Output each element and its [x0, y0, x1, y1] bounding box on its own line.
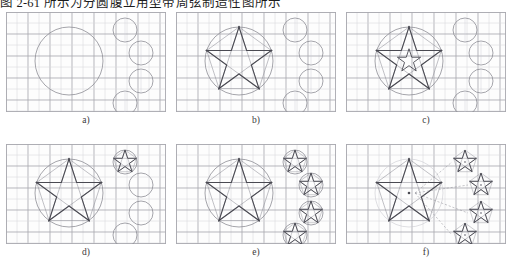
big-guide-circle — [205, 159, 273, 227]
figure-top-caption: 图 2-61 所示为分圆腹立用型带周弦制造性图所示 — [0, 0, 509, 10]
star-construction-lines — [376, 158, 442, 221]
big-guide-circle — [205, 27, 273, 95]
small-star-unit-4 — [454, 223, 477, 244]
big-guide-circle — [35, 159, 103, 227]
small-guide-circle-1 — [283, 150, 307, 174]
small-star-unit-3 — [129, 201, 153, 225]
small-star-unit-2 — [129, 173, 153, 197]
figure-panel-d — [6, 144, 166, 244]
small-star-unit-1 — [113, 150, 137, 174]
small-star-unit-2 — [129, 41, 153, 65]
big-five-pointed-star — [37, 159, 102, 221]
small-star-unit-3 — [299, 201, 323, 225]
big-five-pointed-star — [207, 27, 272, 89]
small-guide-circle-4 — [113, 223, 137, 244]
big-five-pointed-star — [207, 159, 272, 221]
small-star-unit-2 — [299, 41, 323, 65]
small-guide-circle-2 — [129, 173, 153, 197]
panel-caption-e: e) — [176, 247, 336, 258]
small-star-unit-2 — [299, 173, 323, 197]
small-guide-circle-3 — [299, 201, 323, 225]
star-construction-lines — [206, 26, 272, 89]
small-star-unit-1 — [454, 150, 477, 172]
figure-panel-f — [346, 144, 506, 244]
small-star-unit-2 — [469, 41, 493, 65]
big-guide-circle — [375, 27, 443, 95]
small-star-unit-3 — [469, 69, 493, 93]
panel-caption-f: f) — [346, 247, 506, 258]
small-guide-circle-3 — [129, 201, 153, 225]
big-guide-circle — [35, 27, 103, 95]
small-star-unit-1 — [283, 18, 307, 42]
star-construction-lines — [206, 158, 272, 221]
small-star-unit-4 — [113, 223, 137, 244]
graph-paper-grid — [6, 12, 166, 112]
small-star-unit-3 — [129, 69, 153, 93]
small-five-pointed-star-4 — [454, 223, 477, 244]
star-construction-lines — [376, 26, 442, 89]
panel-caption-b: b) — [176, 115, 336, 126]
small-guide-circle-2 — [299, 173, 323, 197]
small-star-unit-4 — [453, 91, 477, 112]
small-star-unit-4 — [283, 223, 307, 244]
small-guide-circle-1 — [113, 150, 137, 174]
small-star-unit-3 — [299, 69, 323, 93]
big-five-pointed-star — [377, 159, 442, 221]
big-five-pointed-star — [377, 27, 442, 89]
figure-panel-c — [346, 12, 506, 112]
small-star-unit-1 — [453, 18, 477, 42]
small-star-unit-1 — [283, 150, 307, 174]
panel-caption-a: a) — [6, 115, 166, 126]
small-star-unit-1 — [113, 18, 137, 42]
figure-panel-a — [6, 12, 166, 112]
panel-caption-c: c) — [346, 115, 506, 126]
small-star-unit-4 — [283, 91, 307, 112]
panel-caption-d: d) — [6, 247, 166, 258]
small-star-unit-4 — [113, 91, 137, 112]
star-construction-lines — [36, 158, 102, 221]
figure-panel-e — [176, 144, 336, 244]
figure-panel-b — [176, 12, 336, 112]
